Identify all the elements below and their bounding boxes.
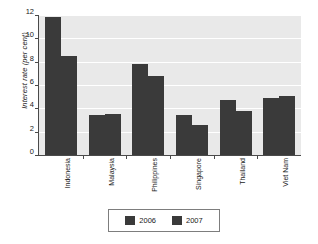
x-tick-mark (257, 156, 258, 159)
x-tick-label: Malaysia (108, 158, 116, 186)
legend-entry: 2007 (172, 216, 203, 225)
bar (61, 56, 77, 155)
y-tick-label: 12 (14, 8, 34, 16)
y-tick-mark (35, 85, 38, 86)
y-tick-mark (35, 15, 38, 16)
legend-label: 2006 (139, 216, 156, 225)
x-tick-label: Philippines (151, 158, 159, 192)
y-tick-label: 8 (14, 55, 34, 63)
legend-entry: 2006 (125, 216, 156, 225)
x-tick-label: Indonesia (64, 158, 72, 188)
bar (263, 98, 279, 155)
plot-area (39, 15, 301, 155)
legend-swatch (172, 216, 182, 225)
chart-legend: 20062007 (108, 209, 220, 232)
x-tick-mark (170, 156, 171, 159)
bar (176, 115, 192, 155)
y-tick-mark (35, 155, 38, 156)
legend-label: 2007 (186, 216, 203, 225)
y-tick-label: 4 (14, 101, 34, 109)
x-tick-label: Viet Nam (282, 158, 290, 187)
y-tick-label: 2 (14, 125, 34, 133)
y-tick-mark (35, 62, 38, 63)
bar (132, 64, 148, 155)
bar (236, 111, 252, 155)
x-axis-tick-labels: IndonesiaMalaysiaPhilippinesSingaporeTha… (39, 156, 301, 206)
y-tick-mark (35, 132, 38, 133)
y-tick-mark (35, 108, 38, 109)
bar (220, 100, 236, 155)
bar (279, 96, 295, 156)
y-tick-mark (35, 38, 38, 39)
bar (105, 114, 121, 155)
y-tick-label: 6 (14, 78, 34, 86)
bar (89, 115, 105, 155)
x-tick-label: Singapore (195, 158, 203, 190)
x-tick-mark (214, 156, 215, 159)
x-tick-label: Thailand (239, 158, 247, 185)
bar (148, 76, 164, 155)
bar (45, 17, 61, 155)
bars-layer (39, 15, 301, 155)
x-tick-mark (83, 156, 84, 159)
bar (192, 125, 208, 155)
y-tick-label: 10 (14, 31, 34, 39)
x-tick-mark (126, 156, 127, 159)
y-axis-tick-labels: 024681012 (14, 12, 34, 156)
legend-swatch (125, 216, 135, 225)
y-tick-label: 0 (14, 148, 34, 156)
bar-chart: Interest rate (per cent) 024681012 Indon… (0, 0, 318, 244)
